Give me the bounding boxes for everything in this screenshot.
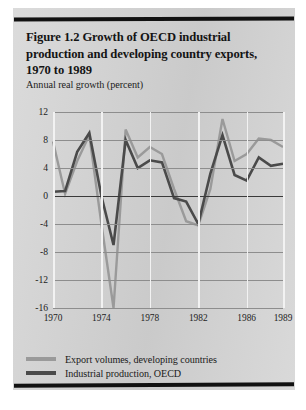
- gridline-x-1974: [101, 112, 103, 308]
- y-tick-label--8: -8: [26, 247, 48, 257]
- x-tick-label-1986: 1986: [237, 313, 256, 323]
- gridline-y--4: [53, 224, 283, 225]
- series-lines: [53, 112, 283, 308]
- chart-legend: Export volumes, developing countriesIndu…: [26, 352, 276, 380]
- gridline-x-1986: [247, 112, 249, 308]
- legend-label: Industrial production, OECD: [65, 368, 181, 379]
- x-tick-label-1970: 1970: [44, 313, 63, 323]
- x-tick-label-1974: 1974: [92, 313, 111, 323]
- y-tick-label--12: -12: [26, 275, 48, 285]
- gridline-x-1978: [150, 112, 152, 308]
- y-tick-label-8: 8: [26, 135, 48, 145]
- gridline-y-4: [53, 168, 283, 169]
- gridline-y-12: [53, 112, 283, 113]
- plot-area: [53, 112, 283, 308]
- y-axis-title: Annual real growth (percent): [26, 79, 143, 90]
- y-tick-label-12: 12: [26, 107, 48, 117]
- legend-label: Export volumes, developing countries: [65, 354, 217, 365]
- y-tick-label--16: -16: [26, 303, 48, 313]
- gridline-x-1989: [283, 112, 285, 308]
- y-tick-label--4: -4: [26, 219, 48, 229]
- scanned-page: Figure 1.2 Growth of OECD industrial pro…: [0, 0, 306, 410]
- legend-swatch-oecd: [26, 371, 56, 375]
- x-tick-label-1982: 1982: [189, 313, 208, 323]
- y-tick-label-0: 0: [26, 191, 48, 201]
- y-tick-label-4: 4: [26, 163, 48, 173]
- gridline-x-1982: [198, 112, 200, 308]
- figure-title: Figure 1.2 Growth of OECD industrial pro…: [26, 29, 284, 79]
- y-axis-labels: 12840-4-8-12-16: [26, 95, 50, 335]
- legend-item: Export volumes, developing countries: [26, 352, 276, 366]
- gridline-y-8: [53, 140, 283, 141]
- line-chart: 12840-4-8-12-16 197019741978198219861989: [26, 95, 284, 335]
- gridline-y--12: [53, 280, 283, 281]
- gridline-y-0: [53, 196, 283, 197]
- gridline-y--16: [53, 308, 283, 309]
- legend-item: Industrial production, OECD: [26, 366, 276, 380]
- gridline-x-1970: [53, 112, 55, 308]
- x-tick-label-1978: 1978: [140, 313, 159, 323]
- legend-swatch-exports: [26, 357, 56, 360]
- gridline-y--8: [53, 252, 283, 253]
- x-tick-label-1989: 1989: [274, 313, 293, 323]
